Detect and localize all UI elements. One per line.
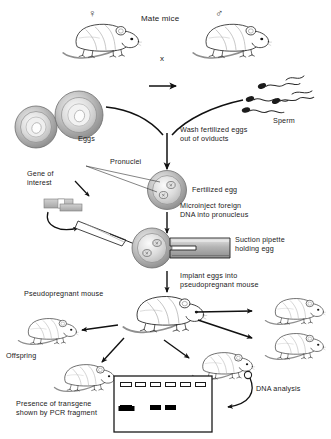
offspring-mouse-right-lower bbox=[265, 334, 326, 360]
female-symbol: ♀ bbox=[88, 8, 104, 19]
offspring-mouse-right-upper bbox=[265, 299, 326, 325]
suction-pipette bbox=[170, 238, 230, 258]
pronuclei-label: Pronuclei bbox=[110, 158, 158, 167]
pcr-result-label: Presence of transgene shown by PCR fragm… bbox=[16, 400, 112, 417]
pcr-caption-pointer bbox=[119, 406, 135, 411]
offspring-mouse-lower-left bbox=[54, 365, 117, 392]
held-egg bbox=[132, 228, 172, 268]
gene-of-interest-label: Gene of interest bbox=[27, 170, 73, 187]
cross-symbol: x bbox=[160, 55, 172, 64]
male-symbol: ♂ bbox=[215, 8, 231, 19]
diagram-artwork bbox=[0, 0, 331, 439]
suction-pipette-label: Suction pipette holding egg bbox=[235, 236, 307, 253]
pseudopregnant-mouse-figure bbox=[123, 296, 207, 332]
implant-eggs-label: Implant eggs into pseudopregnant mouse bbox=[180, 272, 280, 289]
wash-eggs-label: Wash fertilized eggs out of oviducts bbox=[180, 126, 276, 143]
dna-analysis-label: DNA analysis bbox=[256, 385, 308, 394]
fertilized-egg bbox=[86, 166, 187, 210]
microinject-label: Microinject foreign DNA into pronucleus bbox=[180, 202, 278, 219]
fertilized-egg-label: Fertilized egg bbox=[192, 186, 252, 195]
female-parent-mouse bbox=[63, 24, 142, 58]
eggs-label: Eggs bbox=[78, 135, 112, 144]
offspring-mouse-left bbox=[18, 319, 79, 345]
gel-box bbox=[114, 376, 212, 432]
sperm-label: Sperm bbox=[273, 117, 313, 126]
injection-needle bbox=[75, 221, 137, 246]
dna-sampling-path bbox=[228, 371, 252, 407]
pseudopregnant-mouse-label: Pseudopregnant mouse bbox=[24, 290, 120, 299]
sperm-cluster bbox=[241, 76, 314, 116]
male-parent-mouse bbox=[193, 24, 272, 58]
mate-mice-label: Mate mice bbox=[141, 15, 203, 24]
transgenic-mouse-diagram: ♀ ♂ x Mate mice Sperm Eggs Wash fertiliz… bbox=[0, 0, 331, 439]
offspring-label: Offspring bbox=[6, 352, 46, 361]
